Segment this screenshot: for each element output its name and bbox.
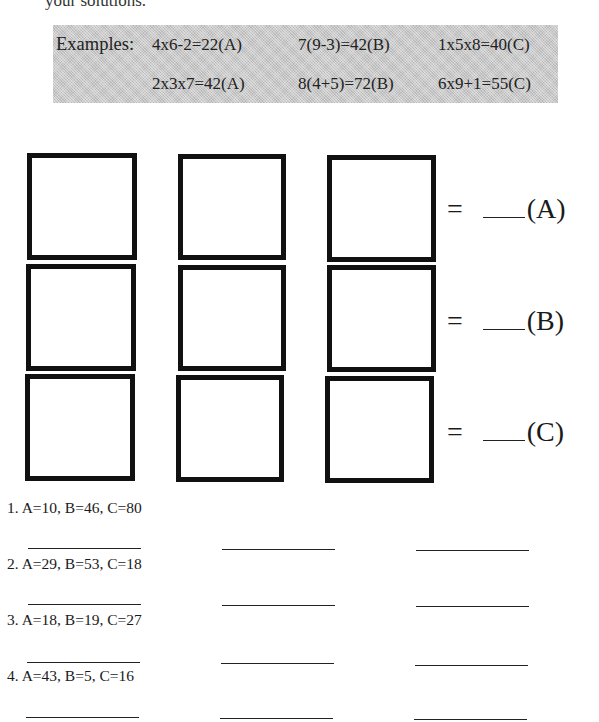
answer-line-4c[interactable]: [414, 719, 527, 720]
answer-blank-c[interactable]: [483, 418, 525, 441]
example-2c: 6x9+1=55(C): [438, 74, 531, 94]
instructions-text: your solutions.: [45, 0, 146, 11]
answer-line-4b[interactable]: [220, 718, 333, 719]
example-2b: 8(4+5)=72(B): [298, 74, 394, 94]
digit-box-b2[interactable]: [178, 265, 286, 371]
problem-4: 4. A=43, B=5, C=16: [7, 667, 134, 685]
digit-box-a1[interactable]: [27, 153, 137, 260]
digit-box-c1[interactable]: [25, 374, 135, 481]
examples-panel: Examples: 4x6-2=22(A) 7(9-3)=42(B) 1x5x8…: [53, 25, 558, 103]
digit-box-a3[interactable]: [327, 155, 436, 262]
answer-line-1b[interactable]: [222, 549, 335, 550]
example-1b: 7(9-3)=42(B): [298, 35, 390, 55]
problem-values: A=43, B=5, C=16: [22, 667, 134, 684]
answer-blank-b[interactable]: [483, 307, 525, 330]
answer-line-4a[interactable]: [26, 717, 139, 718]
answer-line-3b[interactable]: [221, 663, 334, 664]
example-2a: 2x3x7=42(A): [152, 74, 245, 94]
problem-1: 1. A=10, B=46, C=80: [7, 499, 142, 517]
example-1c: 1x5x8=40(C): [438, 35, 530, 55]
digit-box-b1[interactable]: [26, 264, 136, 371]
equation-c: =(C): [447, 416, 564, 448]
equation-b: =(B): [447, 305, 564, 337]
digit-box-c3[interactable]: [325, 376, 434, 483]
answer-line-1a[interactable]: [28, 548, 141, 549]
equation-a: =(A): [447, 193, 566, 225]
examples-label: Examples:: [56, 34, 134, 55]
row-label-b: (B): [527, 305, 564, 336]
answer-line-2b[interactable]: [222, 605, 335, 606]
answer-line-2c[interactable]: [416, 606, 529, 607]
example-1a: 4x6-2=22(A): [152, 35, 242, 55]
digit-box-b3[interactable]: [327, 265, 436, 372]
row-label-c: (C): [527, 416, 564, 447]
problem-values: A=29, B=53, C=18: [22, 555, 142, 572]
row-label-a: (A): [527, 193, 566, 224]
problem-number: 4.: [7, 667, 19, 684]
problem-number: 3.: [7, 611, 19, 628]
equals-sign: =: [447, 416, 463, 447]
answer-line-2a[interactable]: [28, 604, 141, 605]
problem-number: 1.: [7, 499, 19, 516]
answer-blank-a[interactable]: [483, 195, 525, 218]
problem-values: A=10, B=46, C=80: [22, 499, 142, 516]
answer-line-1c[interactable]: [416, 550, 529, 551]
answer-line-3c[interactable]: [415, 665, 528, 666]
problem-2: 2. A=29, B=53, C=18: [7, 555, 142, 573]
problem-3: 3. A=18, B=19, C=27: [7, 611, 142, 629]
equals-sign: =: [447, 193, 463, 224]
problem-number: 2.: [7, 555, 19, 572]
equals-sign: =: [447, 305, 463, 336]
problem-values: A=18, B=19, C=27: [22, 611, 142, 628]
digit-box-a2[interactable]: [178, 154, 286, 260]
answer-line-3a[interactable]: [27, 662, 140, 663]
digit-box-c2[interactable]: [176, 375, 284, 482]
